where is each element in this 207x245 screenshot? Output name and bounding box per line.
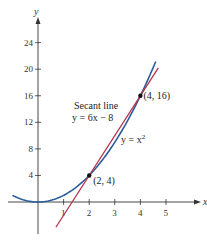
parabola-label: y = x2 xyxy=(121,133,146,145)
y-tick-label: 16 xyxy=(24,91,34,101)
point-2-4-label: (2, 4) xyxy=(93,175,115,187)
y-tick-label: 8 xyxy=(29,144,34,154)
parabola-curve xyxy=(12,62,155,203)
y-tick-label: 20 xyxy=(24,64,34,74)
secant-line-chart: x y 12345 4812162024 (2, 4) (4, 16) Seca… xyxy=(0,0,207,245)
x-tick-label: 5 xyxy=(164,208,169,218)
y-axis-label: y xyxy=(33,6,39,17)
y-tick-label: 24 xyxy=(24,38,34,48)
y-tick-label: 12 xyxy=(24,117,33,127)
parabola-label-exponent: 2 xyxy=(142,133,146,141)
x-tick-label: 4 xyxy=(138,208,143,218)
x-tick-label: 2 xyxy=(87,208,92,218)
secant-label-equation: y = 6x − 8 xyxy=(72,112,113,123)
x-axis-arrow-icon xyxy=(194,200,201,205)
point-2-4 xyxy=(87,173,91,177)
point-4-16 xyxy=(138,94,142,98)
parabola-label-base: y = x xyxy=(121,134,142,145)
x-axis-label: x xyxy=(202,196,207,207)
y-tick-label: 4 xyxy=(29,170,34,180)
point-4-16-label: (4, 16) xyxy=(143,90,170,102)
secant-label-title: Secant line xyxy=(74,100,119,111)
y-axis-arrow-icon xyxy=(36,17,41,24)
x-tick-label: 3 xyxy=(112,208,117,218)
